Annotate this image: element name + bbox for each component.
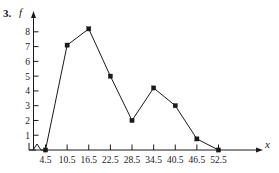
x-tick-label: 52.5 bbox=[210, 155, 227, 165]
data-point-marker bbox=[130, 118, 134, 122]
x-tick-label: 16.5 bbox=[80, 155, 97, 165]
y-tick-label: 3 bbox=[25, 101, 30, 111]
data-point-marker bbox=[152, 86, 156, 90]
x-tick-label: 22.5 bbox=[102, 155, 119, 165]
y-tick-label: 1 bbox=[25, 131, 30, 141]
data-point-marker bbox=[195, 137, 199, 141]
x-axis-ticks: 4.510.516.522.528.534.540.546.552.5 bbox=[40, 145, 228, 166]
y-tick-label: 7 bbox=[25, 42, 30, 52]
x-tick-label: 40.5 bbox=[167, 155, 184, 165]
y-tick-label: 8 bbox=[25, 27, 30, 37]
data-point-marker bbox=[43, 148, 47, 152]
data-point-marker bbox=[173, 104, 177, 108]
y-tick-label: 5 bbox=[25, 72, 30, 82]
y-axis-arrow-icon bbox=[31, 11, 36, 18]
y-axis-ticks: 12345678 bbox=[25, 27, 38, 140]
y-tick-label: 2 bbox=[25, 116, 30, 126]
x-tick-label: 4.5 bbox=[40, 155, 52, 165]
frequency-polygon-line bbox=[46, 29, 219, 150]
x-tick-label: 34.5 bbox=[145, 155, 162, 165]
x-axis-arrow-icon bbox=[256, 148, 263, 153]
data-point-marker bbox=[65, 43, 69, 47]
x-tick-label: 10.5 bbox=[59, 155, 76, 165]
x-tick-label: 46.5 bbox=[189, 155, 206, 165]
data-point-marker bbox=[108, 74, 112, 78]
data-point-marker bbox=[216, 148, 220, 152]
chart-plot-area: 12345678 4.510.516.522.528.534.540.546.5… bbox=[0, 0, 279, 173]
y-tick-label: 6 bbox=[25, 57, 30, 67]
frequency-polygon-figure: 3. f x 12345678 4.510.516.522.528.534.54… bbox=[0, 0, 279, 173]
x-axis-break-symbol bbox=[29, 143, 45, 150]
data-point-markers bbox=[43, 27, 220, 152]
data-point-marker bbox=[87, 27, 91, 31]
y-tick-label: 4 bbox=[25, 86, 30, 96]
x-axis bbox=[29, 148, 263, 153]
x-tick-label: 28.5 bbox=[124, 155, 141, 165]
